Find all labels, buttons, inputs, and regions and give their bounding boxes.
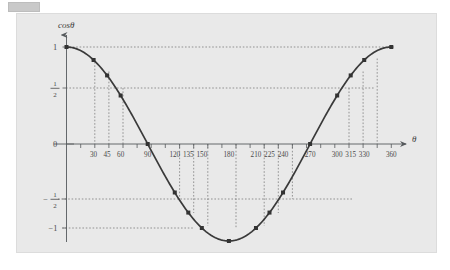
data-point-315	[349, 73, 353, 77]
x-tick-label-180: 180	[224, 151, 235, 159]
vertical-guide-lines	[95, 59, 377, 229]
x-tick-label-60: 60	[117, 151, 125, 159]
x-tick-label-210: 210	[251, 151, 262, 159]
data-point-135	[186, 211, 190, 215]
y-tick-label-half: 1 2	[51, 80, 60, 99]
data-point-210	[254, 226, 258, 230]
x-tick-label-120: 120	[169, 151, 180, 159]
x-tick-label-330: 330	[359, 151, 370, 159]
x-tick-label-135: 135	[183, 151, 194, 159]
y-axis-ticks	[63, 47, 75, 228]
x-axis-tick-labels: 3045609012013515018021022524027030031533…	[90, 151, 397, 159]
x-tick-label-225: 225	[264, 151, 275, 159]
data-point-180	[227, 239, 231, 243]
cosine-chart-panel: 1 1 2 0 1 2 − −1 cosθ θ 3045609012013515…	[16, 13, 437, 253]
data-point-225	[268, 211, 272, 215]
x-tick-label-240: 240	[278, 151, 289, 159]
x-tick-label-90: 90	[144, 151, 152, 159]
data-point-30	[92, 58, 96, 62]
svg-text:1: 1	[53, 80, 57, 88]
x-tick-label-300: 300	[332, 151, 343, 159]
svg-text:2: 2	[53, 91, 57, 99]
data-point-60	[119, 94, 123, 98]
data-point-120	[173, 191, 177, 195]
x-tick-label-360: 360	[386, 151, 397, 159]
x-tick-label-270: 270	[305, 151, 316, 159]
data-point-360	[389, 45, 393, 49]
x-tick-label-150: 150	[196, 151, 207, 159]
svg-text:2: 2	[53, 202, 57, 210]
y-tick-label-0: 0	[53, 140, 57, 149]
data-point-240	[281, 191, 285, 195]
cosine-graph: 1 1 2 0 1 2 − −1 cosθ θ 3045609012013515…	[17, 14, 436, 252]
data-point-150	[200, 226, 204, 230]
data-point-270	[308, 142, 312, 146]
y-axis-title: cosθ	[58, 20, 75, 30]
data-point-330	[362, 58, 366, 62]
x-axis-ticks	[81, 144, 392, 148]
svg-text:−: −	[43, 195, 48, 204]
data-point-45	[105, 73, 109, 77]
x-tick-label-315: 315	[345, 151, 356, 159]
svg-text:1: 1	[53, 191, 57, 199]
x-axis-title: θ	[412, 134, 417, 144]
x-tick-label-30: 30	[90, 151, 98, 159]
y-tick-label-1: 1	[53, 43, 57, 52]
gray-placeholder-bar	[8, 2, 40, 12]
x-tick-label-45: 45	[104, 151, 112, 159]
data-point-300	[335, 94, 339, 98]
y-tick-label-neg-1: −1	[49, 224, 58, 233]
data-point-0	[65, 45, 69, 49]
y-tick-label-neg-half: 1 2 −	[43, 191, 59, 210]
data-point-90	[146, 142, 150, 146]
